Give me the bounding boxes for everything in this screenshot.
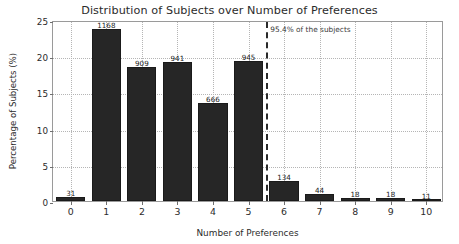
x-axis-tick-label: 2	[139, 206, 145, 217]
x-axis-tick-mark	[284, 201, 285, 205]
bar	[198, 103, 227, 201]
gridline-vertical	[426, 22, 427, 201]
x-axis-tick-mark	[177, 201, 178, 205]
y-axis-tick-label: 25	[37, 17, 48, 27]
x-axis-tick-label: 8	[352, 206, 358, 217]
x-axis-tick-mark	[213, 201, 214, 205]
bar-value-label: 941	[171, 54, 185, 63]
bar-value-label: 945	[242, 53, 256, 62]
y-axis-tick-label: 15	[37, 89, 48, 99]
bar-value-label: 11	[422, 192, 431, 201]
bar	[163, 62, 192, 201]
y-axis-tick-mark	[50, 131, 54, 132]
chart-title: Distribution of Subjects over Number of …	[0, 4, 459, 17]
x-axis-tick-mark	[391, 201, 392, 205]
x-axis-tick-label: 7	[317, 206, 323, 217]
plot-inner: 0510152025 012345678910 3111689099416669…	[53, 22, 442, 201]
x-axis-tick-mark	[355, 201, 356, 205]
y-axis-tick-mark	[50, 203, 54, 204]
x-axis-tick-label: 3	[174, 206, 180, 217]
plot-area: 0510152025 012345678910 3111689099416669…	[52, 21, 443, 202]
bar-value-label: 134	[277, 173, 291, 182]
threshold-line	[266, 22, 268, 201]
y-axis-tick-mark	[50, 94, 54, 95]
bar-value-label: 666	[206, 95, 220, 104]
bar-value-label: 18	[351, 190, 360, 199]
x-axis-tick-label: 10	[420, 206, 432, 217]
gridline-vertical	[71, 22, 72, 201]
x-axis-tick-label: 0	[68, 206, 74, 217]
chart-figure: Distribution of Subjects over Number of …	[0, 0, 459, 244]
bar-value-label: 44	[315, 186, 324, 195]
y-axis-label: Percentage of Subjects (%)	[8, 41, 18, 181]
bar	[234, 61, 263, 201]
bar-value-label: 1168	[97, 21, 115, 30]
y-axis-tick-label: 10	[37, 126, 48, 136]
threshold-annotation-label: 95.4% of the subjects	[270, 25, 350, 34]
x-axis-tick-mark	[71, 201, 72, 205]
y-axis-tick-mark	[50, 167, 54, 168]
x-axis-tick-label: 4	[210, 206, 216, 217]
x-axis-tick-mark	[106, 201, 107, 205]
bar	[269, 181, 298, 201]
y-axis-tick-mark	[50, 58, 54, 59]
bar-value-label: 909	[135, 59, 149, 68]
bar	[127, 67, 156, 201]
x-axis-tick-mark	[249, 201, 250, 205]
x-axis-tick-label: 6	[281, 206, 287, 217]
bar	[92, 29, 121, 201]
x-axis-tick-label: 5	[246, 206, 252, 217]
x-axis-tick-label: 9	[388, 206, 394, 217]
x-axis-tick-label: 1	[103, 206, 109, 217]
y-axis-tick-mark	[50, 22, 54, 23]
gridline-vertical	[355, 22, 356, 201]
y-axis-tick-label: 5	[42, 162, 48, 172]
gridline-vertical	[320, 22, 321, 201]
bar-value-label: 31	[66, 189, 75, 198]
gridline-vertical	[391, 22, 392, 201]
x-axis-label: Number of Preferences	[52, 228, 443, 238]
y-axis-tick-label: 20	[37, 53, 48, 63]
x-axis-tick-mark	[320, 201, 321, 205]
x-axis-tick-mark	[142, 201, 143, 205]
bar-value-label: 18	[386, 190, 395, 199]
x-axis-tick-mark	[426, 201, 427, 205]
y-axis-tick-label: 0	[42, 198, 48, 208]
